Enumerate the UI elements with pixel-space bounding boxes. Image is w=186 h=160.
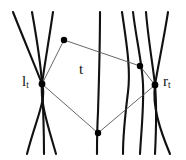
label-subscript: t (168, 80, 171, 90)
curves-group (13, 12, 170, 154)
curve-c2 (122, 12, 129, 154)
top-node (61, 37, 67, 43)
left-node (39, 81, 46, 88)
upper-right-node (137, 63, 143, 69)
curve-c3 (133, 12, 143, 154)
label-right-node: rt (163, 74, 171, 90)
label-base: t (79, 61, 83, 77)
figure-canvas: lt rt t (0, 0, 186, 160)
label-subscript: t (26, 80, 29, 90)
bottom-node (95, 130, 101, 136)
right-node (152, 82, 159, 89)
label-region-t: t (79, 62, 83, 77)
label-left-node: lt (22, 74, 29, 90)
